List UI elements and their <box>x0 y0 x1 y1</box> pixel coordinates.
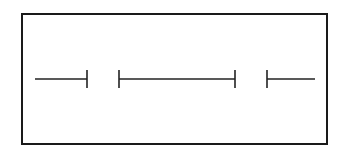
interval-diagram <box>0 0 346 154</box>
segments-group <box>35 70 315 88</box>
